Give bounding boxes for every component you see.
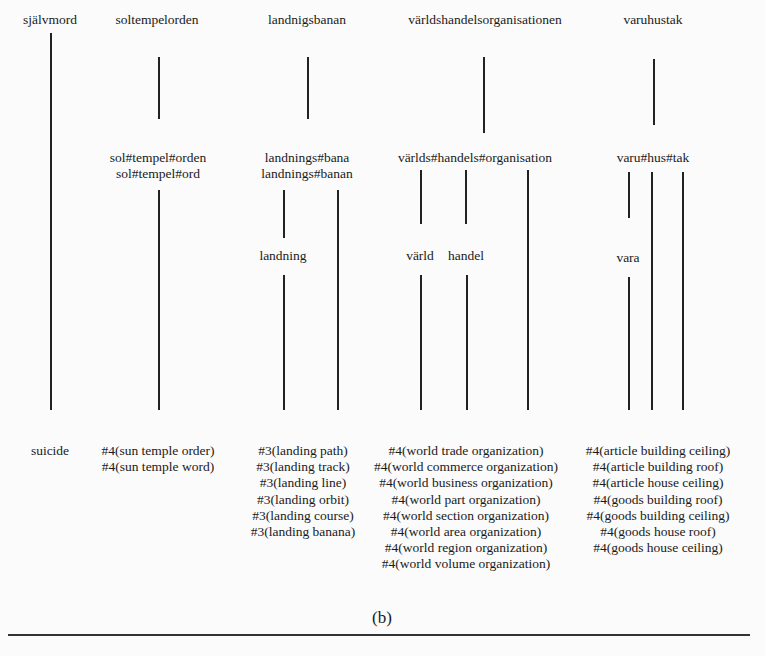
seg-varlds-handels-organisation: världs#handels#organisation	[398, 150, 552, 166]
translation-item: #4(world business organization)	[374, 475, 558, 491]
seg-sol-tempel-orden: sol#tempel#orden	[110, 150, 207, 166]
translation-item: #4(sun temple word)	[101, 459, 214, 475]
edge-handels-handel	[465, 170, 467, 224]
seg-sol-tempel-ord: sol#tempel#ord	[110, 166, 207, 182]
edge-varlds-varld	[420, 170, 422, 224]
seg-landnigsbanan: landnings#bana landnings#banan	[261, 150, 352, 182]
edge-handel-translation	[466, 275, 468, 410]
root-sjalvmord: självmord	[23, 12, 77, 28]
translations-varldshandels: #4(world trade organization) #4(world co…	[374, 443, 558, 573]
translations-landnigsbanan: #3(landing path) #3(landing track) #3(la…	[251, 443, 356, 540]
seg-varu-hus-tak: varu#hus#tak	[617, 150, 690, 166]
translation-item: #4(world area organization)	[374, 524, 558, 540]
edge-tak-translation	[682, 172, 684, 410]
translation-item: #4(world trade organization)	[374, 443, 558, 459]
edge-landning-translation	[283, 275, 285, 410]
translation-item: #3(landing track)	[251, 459, 356, 475]
subword-vara: vara	[616, 250, 639, 266]
edge-sol-translation	[158, 190, 160, 410]
seg-landnings-banan: landnings#banan	[261, 166, 352, 182]
translation-item: #3(landing orbit)	[251, 492, 356, 508]
edge-banan-translation	[337, 190, 339, 410]
translation-item: #3(landing banana)	[251, 524, 356, 540]
seg-landnings-bana: landnings#bana	[261, 150, 352, 166]
translation-item: #3(landing course)	[251, 508, 356, 524]
translation-item: #3(landing path)	[251, 443, 356, 459]
edge-varu-vara	[628, 172, 630, 218]
seg-soltempelorden: sol#tempel#orden sol#tempel#ord	[110, 150, 207, 182]
edge-landnings-landning	[283, 190, 285, 238]
root-soltempelorden: soltempelorden	[115, 12, 198, 28]
subword-varld: värld	[406, 248, 434, 264]
translations-sjalvmord: suicide	[31, 443, 69, 459]
translation-item: #3(landing line)	[251, 475, 356, 491]
edge-soltempelorden-top	[158, 57, 160, 119]
translation-item: #4(sun temple order)	[101, 443, 214, 459]
translation-item: #4(article house ceiling)	[586, 475, 731, 491]
root-varldshandelsorganisationen: världshandelsorganisationen	[408, 12, 561, 28]
edge-organisation-translation	[527, 170, 529, 410]
translation-item: #4(goods house ceiling)	[586, 540, 731, 556]
translation-item: #4(world section organization)	[374, 508, 558, 524]
translation-item: #4(world volume organization)	[374, 556, 558, 572]
translation-item: #4(goods building ceiling)	[586, 508, 731, 524]
translation-item: #4(goods building roof)	[586, 492, 731, 508]
root-varuhustak: varuhustak	[623, 12, 682, 28]
figure-caption: (b)	[372, 608, 392, 628]
edge-vara-translation	[628, 277, 630, 410]
horizontal-rule	[8, 634, 750, 636]
translation-item: #4(world commerce organization)	[374, 459, 558, 475]
translations-soltempelorden: #4(sun temple order) #4(sun temple word)	[101, 443, 214, 475]
subword-handel: handel	[448, 248, 484, 264]
translation-item: #4(article building ceiling)	[586, 443, 731, 459]
root-landnigsbanan: landnigsbanan	[268, 12, 346, 28]
edge-landnigsbanan-top	[307, 57, 309, 119]
translation-item: suicide	[31, 443, 69, 459]
translations-varuhustak: #4(article building ceiling) #4(article …	[586, 443, 731, 556]
translation-item: #4(goods house roof)	[586, 524, 731, 540]
edge-varuhustak-top	[653, 59, 655, 125]
edge-hus-translation	[651, 172, 653, 410]
translation-item: #4(world part organization)	[374, 492, 558, 508]
translation-item: #4(article building roof)	[586, 459, 731, 475]
subword-landning: landning	[259, 248, 306, 264]
edge-varldshandels-top	[483, 57, 485, 133]
edge-sjalvmord	[50, 33, 52, 410]
edge-varld-translation	[420, 275, 422, 410]
translation-item: #4(world region organization)	[374, 540, 558, 556]
